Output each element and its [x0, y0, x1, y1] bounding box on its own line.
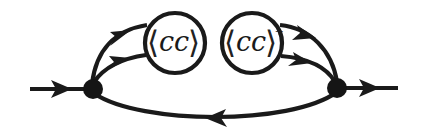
feynman-diagram: ⟨ cc ⟩ ⟨ cc ⟩ + [0, 0, 422, 133]
left-propagators-to-condensate [92, 25, 147, 84]
conjugate-condensate-label: cc [236, 26, 266, 57]
return-propagator-arc [95, 92, 337, 127]
outgoing-propagator [340, 79, 398, 97]
right-vertex [327, 78, 347, 98]
conjugate-superscript: + [275, 23, 283, 39]
condensate-label: cc [159, 26, 189, 57]
right-propagators-from-conjugate [280, 25, 337, 82]
left-vertex [83, 79, 103, 99]
open-angle-bracket: ⟨ [224, 24, 236, 60]
incoming-propagator [30, 80, 90, 98]
conjugate-condensate-bubble: ⟨ cc ⟩ + [222, 13, 283, 73]
close-angle-bracket: ⟩ [188, 24, 200, 60]
open-angle-bracket: ⟨ [147, 24, 159, 60]
condensate-bubble: ⟨ cc ⟩ [145, 13, 205, 73]
arrow-icon [107, 56, 131, 70]
